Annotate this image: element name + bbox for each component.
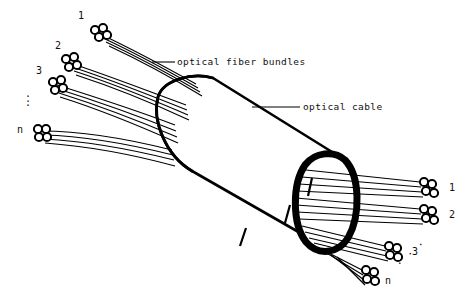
output-bundle-label-1: 1 xyxy=(449,182,455,193)
input-bundle-label-1: 1 xyxy=(78,10,84,21)
input-bundle-2-end xyxy=(62,53,81,71)
input-bundle-label-n: n xyxy=(17,124,23,135)
figure-canvas: optical fiber bundles optical cable 1 2 … xyxy=(0,0,468,304)
output-bundle-n-end xyxy=(362,266,379,285)
input-ellipsis: ... xyxy=(25,92,31,106)
input-bundle-label-3: 3 xyxy=(36,65,42,76)
output-bundle-label-n: n xyxy=(385,275,391,286)
label-optical-fiber-bundles: optical fiber bundles xyxy=(177,56,306,67)
output-bundle-2-end xyxy=(420,205,438,224)
output-bundle-label-2: 2 xyxy=(449,209,455,220)
output-bundle-1-end xyxy=(420,178,438,197)
label-optical-cable: optical cable xyxy=(303,101,383,112)
input-bundle-label-2: 2 xyxy=(55,40,61,51)
input-bundle-1-end xyxy=(91,24,111,41)
input-bundle-n-end xyxy=(34,125,51,141)
